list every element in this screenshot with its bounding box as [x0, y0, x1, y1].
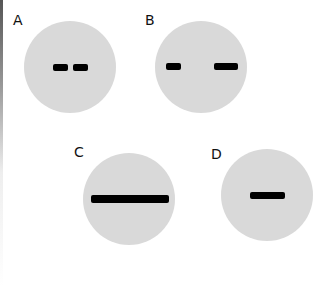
left-edge-shadow: [0, 0, 3, 287]
band: [53, 64, 68, 71]
panel-label: C: [74, 145, 84, 159]
panel-label: A: [13, 13, 23, 27]
band: [73, 64, 88, 71]
band: [214, 63, 238, 70]
band: [250, 192, 285, 199]
disc: [24, 21, 116, 113]
band: [91, 195, 169, 203]
panel-label: B: [145, 13, 155, 27]
band: [166, 63, 181, 70]
panel-label: D: [211, 147, 222, 161]
